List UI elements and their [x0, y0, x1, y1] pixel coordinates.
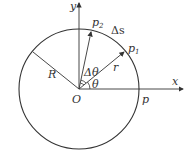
- r-label: r: [113, 61, 119, 74]
- p2-label: p2: [92, 16, 104, 30]
- arc-length-label: Δs: [111, 24, 125, 37]
- y-axis-label: y: [69, 0, 77, 13]
- x-axis-label: x: [172, 75, 179, 88]
- circular-motion-diagram: y x O R r p p1 p2 Δs Δθ θ: [0, 0, 194, 163]
- delta-theta-arc-2: [81, 83, 85, 85]
- theta-arc: [88, 82, 91, 89]
- p-label: p: [142, 93, 149, 106]
- radius-label: R: [47, 68, 56, 81]
- delta-theta-arc: [81, 80, 86, 83]
- origin-label: O: [72, 93, 81, 106]
- theta-label: θ: [92, 78, 99, 91]
- p1-label: p1: [128, 42, 140, 56]
